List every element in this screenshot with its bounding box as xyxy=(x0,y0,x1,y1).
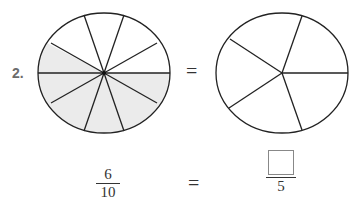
right-circle-five-parts xyxy=(216,13,348,133)
right-denominator: 5 xyxy=(266,179,296,194)
fraction-circles xyxy=(0,0,354,205)
left-circle-ten-parts xyxy=(38,13,170,133)
equals-sign-top: = xyxy=(186,60,197,83)
answer-box[interactable] xyxy=(268,150,294,175)
left-denominator: 10 xyxy=(96,185,120,200)
equals-sign-bottom: = xyxy=(188,172,199,195)
left-numerator: 6 xyxy=(96,167,120,182)
left-fraction: 6 10 xyxy=(96,167,120,200)
right-fraction: 5 xyxy=(266,150,296,194)
